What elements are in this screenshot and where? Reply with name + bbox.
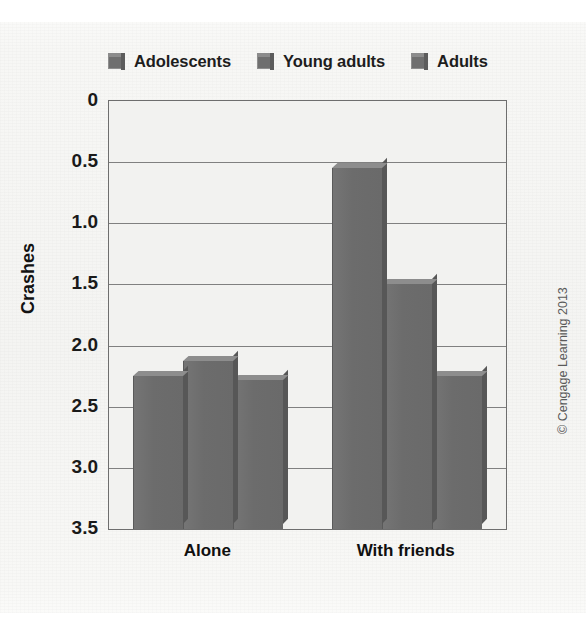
gridline xyxy=(109,346,506,347)
bar-adults-with-friends xyxy=(432,376,482,529)
legend-swatch-icon xyxy=(411,53,428,69)
plot-area xyxy=(108,100,507,530)
y-axis-tick-label: 2.5 xyxy=(72,395,98,417)
copyright-credit: © Cengage Learning 2013 xyxy=(556,287,570,434)
bar-front-face xyxy=(133,376,183,529)
bar-side-face xyxy=(382,158,387,524)
legend-swatch-icon xyxy=(108,53,125,69)
legend-label: Young adults xyxy=(283,52,385,71)
bar-side-face xyxy=(432,274,437,524)
copyright-credit-wrapper: © Cengage Learning 2013 xyxy=(556,287,570,434)
y-axis-tick-label: 3.5 xyxy=(72,517,98,539)
legend-item-adolescents: Adolescents xyxy=(108,52,231,71)
legend-item-adults: Adults xyxy=(411,52,488,71)
bar-adolescents-with-friends xyxy=(332,168,382,529)
chart-legend: Adolescents Young adults Adults xyxy=(108,48,508,74)
bar-side-face xyxy=(233,351,238,524)
bar-front-face xyxy=(233,380,283,529)
gridline xyxy=(109,223,506,224)
y-axis-tick-label: 3.0 xyxy=(72,456,98,478)
y-axis-title-wrapper: Crashes xyxy=(18,243,39,314)
x-axis-tick-label: Alone xyxy=(184,541,231,561)
bar-chart-figure: Adolescents Young adults Adults Crashes … xyxy=(0,0,586,637)
y-axis-tick-label: 1.0 xyxy=(72,211,98,233)
bar-front-face xyxy=(382,284,432,529)
bar-side-face xyxy=(283,370,288,524)
x-axis-tick-label: With friends xyxy=(357,541,455,561)
gridline xyxy=(109,162,506,163)
bar-front-face xyxy=(332,168,382,529)
bar-adolescents-alone xyxy=(133,376,183,529)
y-axis-title: Crashes xyxy=(18,243,39,314)
y-axis-tick-label: 1.5 xyxy=(72,272,98,294)
bar-young-adults-alone xyxy=(183,361,233,529)
bar-side-face xyxy=(183,366,188,524)
legend-swatch-icon xyxy=(257,53,274,69)
y-axis-tick-label: 0.5 xyxy=(72,150,98,172)
bar-adults-alone xyxy=(233,380,283,529)
bar-front-face xyxy=(432,376,482,529)
bar-young-adults-with-friends xyxy=(382,284,432,529)
legend-label: Adolescents xyxy=(134,52,231,71)
legend-item-young-adults: Young adults xyxy=(257,52,385,71)
legend-label: Adults xyxy=(437,52,488,71)
y-axis-tick-label: 2.0 xyxy=(72,334,98,356)
y-axis-tick-label: 0 xyxy=(87,89,98,111)
bar-side-face xyxy=(482,366,487,524)
bar-front-face xyxy=(183,361,233,529)
gridline xyxy=(109,284,506,285)
